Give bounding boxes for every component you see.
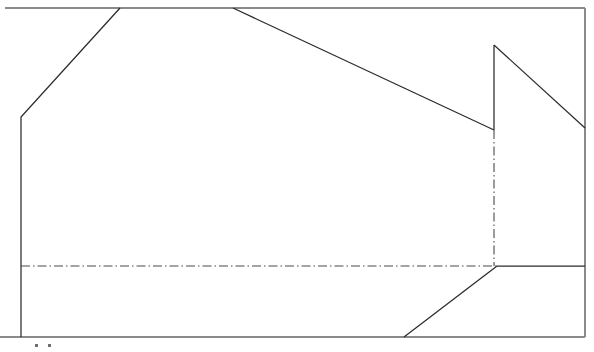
diagram-canvas <box>0 0 594 352</box>
crop-mark-right <box>48 344 51 347</box>
lower-ascending-diagonal <box>404 266 497 337</box>
left-wall-and-roof-slope <box>21 8 120 337</box>
building-profile-group <box>21 8 585 337</box>
crop-mark-left <box>35 344 38 347</box>
main-roof-descending-slope <box>233 8 494 130</box>
dormer-descending-slope <box>494 45 585 128</box>
drawing-border-group <box>0 8 585 337</box>
diagram-root <box>0 0 594 352</box>
centerline-group <box>21 130 497 266</box>
crop-mark-group <box>35 344 51 347</box>
